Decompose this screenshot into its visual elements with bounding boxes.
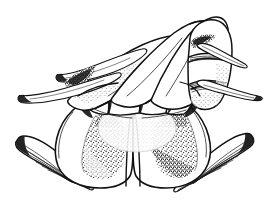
figure-root: Arthropod mouthpart / head capsule, ante… [0,0,270,207]
illustration-canvas [0,0,270,207]
